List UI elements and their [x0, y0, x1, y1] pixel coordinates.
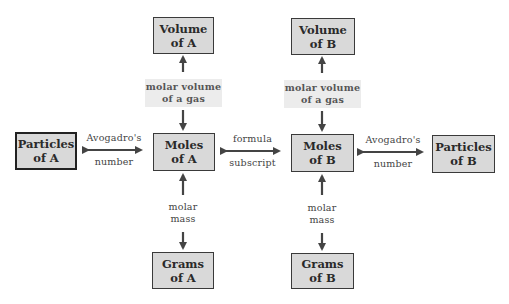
node-volume-b: Volumeof B [291, 18, 355, 55]
edge-label-avogadro-b-bottom: number [358, 158, 428, 170]
node-moles-a: Molesof A [153, 133, 215, 171]
node-moles-b: Molesof B [291, 134, 354, 172]
node-particles-a: Particlesof A [15, 132, 77, 170]
edge-label-molar-mass-a: molar mass [160, 201, 206, 225]
node-label: of A [160, 36, 208, 50]
node-label: Grams [302, 257, 344, 271]
edge-label-avogadro-b-top: Avogadro's [358, 134, 428, 146]
edge-label-formula-bottom: subscript [220, 157, 285, 169]
edge-label-line: mass [160, 213, 206, 225]
edge-label-line: molar volume [145, 81, 222, 93]
edge-label-formula-top: formula [220, 133, 285, 145]
edge-label-molar-volume-b: molar volume of a gas [284, 80, 361, 108]
node-label: of B [435, 154, 492, 168]
node-grams-b: Gramsof B [291, 253, 354, 289]
edge-label-avogadro-a-bottom: number [80, 156, 148, 168]
node-particles-b: Particlesof B [432, 135, 495, 173]
node-label: of A [18, 151, 75, 165]
edge-label-line: molar [160, 201, 206, 213]
node-label: Particles [435, 140, 492, 154]
node-label: Grams [162, 257, 204, 271]
node-grams-a: Gramsof A [152, 252, 214, 289]
node-label: of A [165, 152, 204, 166]
node-label: of A [162, 271, 204, 285]
edge-label-molar-volume-a: molar volume of a gas [145, 79, 222, 107]
edge-label-avogadro-a-top: Avogadro's [80, 132, 148, 144]
node-label: Volume [160, 22, 208, 36]
node-label: of B [299, 37, 347, 51]
edge-label-line: molar [299, 202, 345, 214]
node-label: Moles [303, 139, 342, 153]
node-volume-a: Volumeof A [153, 17, 214, 54]
node-label: Particles [18, 137, 75, 151]
node-label: of B [302, 271, 344, 285]
node-label: Moles [165, 138, 204, 152]
node-label: Volume [299, 23, 347, 37]
edge-label-line: molar volume [284, 82, 361, 94]
edge-label-line: of a gas [145, 93, 222, 105]
node-label: of B [303, 153, 342, 167]
edge-label-molar-mass-b: molar mass [299, 202, 345, 226]
edge-label-line: of a gas [284, 94, 361, 106]
edge-label-line: mass [299, 214, 345, 226]
